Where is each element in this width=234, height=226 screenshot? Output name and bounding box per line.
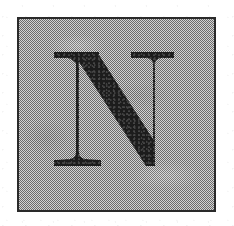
scanned-page bbox=[0, 0, 234, 226]
letter-plate bbox=[17, 17, 216, 212]
glyph-container bbox=[19, 19, 214, 210]
letter-n-glyph bbox=[53, 50, 175, 168]
